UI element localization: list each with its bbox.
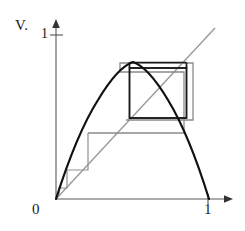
x-axis-arrow-icon: [224, 195, 233, 203]
x-axis-tick-label-one: 1: [204, 202, 212, 217]
cobweb-figure: V. 1 0 1: [0, 0, 245, 231]
y-axis-arrow-icon: [52, 19, 60, 28]
cobweb-plot-canvas: [0, 0, 245, 231]
cobweb-light-steps: [59, 133, 88, 196]
figure-index-label: V.: [15, 18, 28, 33]
origin-label: 0: [32, 202, 40, 217]
identity-diagonal-line: [56, 28, 215, 199]
cobweb-outer-rectangle: [88, 63, 193, 133]
y-axis-tick-label-one: 1: [41, 27, 48, 41]
